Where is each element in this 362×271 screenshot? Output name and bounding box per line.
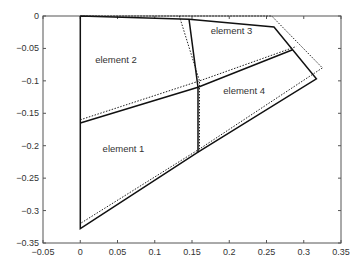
y-tick-label: 0 <box>34 11 39 21</box>
y-tick-label: −0.3 <box>21 206 39 216</box>
x-tick-label: 0.1 <box>148 247 161 257</box>
x-tick-label: 0.05 <box>109 247 127 257</box>
x-tick-label: −0.05 <box>32 247 55 257</box>
y-tick-label: −0.05 <box>16 43 39 53</box>
element-label: element 1 <box>103 143 145 154</box>
x-axis-tick-labels: −0.0500.050.10.150.20.250.30.35 <box>32 247 350 257</box>
x-tick-label: 0.2 <box>223 247 236 257</box>
x-tick-label: 0 <box>78 247 83 257</box>
plot-area <box>43 16 341 243</box>
y-tick-label: −0.2 <box>21 141 39 151</box>
mesh-plot: −0.0500.050.10.150.20.250.30.35 0−0.05−0… <box>0 0 362 271</box>
y-tick-label: −0.35 <box>16 238 39 248</box>
x-tick-label: 0.3 <box>297 247 310 257</box>
y-axis-tick-labels: 0−0.05−0.1−0.15−0.2−0.25−0.3−0.35 <box>16 11 39 248</box>
x-tick-label: 0.35 <box>332 247 350 257</box>
element-label: element 2 <box>95 54 137 65</box>
x-tick-label: 0.25 <box>258 247 276 257</box>
y-tick-label: −0.1 <box>21 76 39 86</box>
y-tick-label: −0.25 <box>16 173 39 183</box>
y-tick-label: −0.15 <box>16 108 39 118</box>
element-label: element 4 <box>223 85 265 96</box>
element-label: element 3 <box>211 25 253 36</box>
x-tick-label: 0.15 <box>183 247 201 257</box>
